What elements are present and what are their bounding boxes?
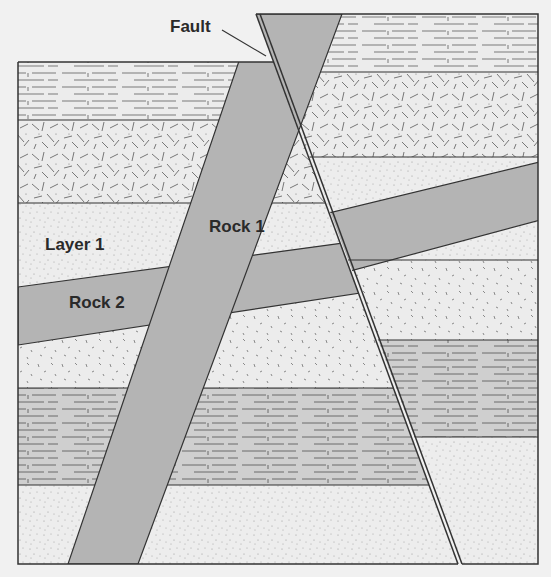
label-rock2: Rock 2 [69, 293, 125, 312]
label-layer1: Layer 1 [45, 235, 105, 254]
label-fault: Fault [170, 17, 211, 36]
label-rock1: Rock 1 [209, 217, 265, 236]
fault-leader-line [222, 30, 266, 56]
geologic-cross-section: Fault Rock 1 Layer 1 Rock 2 [0, 0, 551, 577]
